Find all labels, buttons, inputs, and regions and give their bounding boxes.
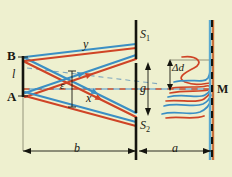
label-slit-top-subscript: 1 [146,34,150,43]
label-ray-lower-x: x [86,92,91,104]
label-slit-gap-g: g [140,82,146,94]
label-slit-bottom-S2: S2 [140,119,150,135]
label-slit-bottom-subscript: 2 [146,125,150,134]
label-source-bottom-A: A [7,90,16,103]
label-angle-epsilon: ε [60,80,64,91]
label-source-length-l: l [12,68,15,80]
label-ray-upper-y: y [83,38,88,50]
label-dim-a: a [172,142,178,154]
label-dim-b: b [74,142,80,154]
label-screen-point-M: M [217,83,228,95]
label-fringe-spacing-dd: Δd [172,62,184,73]
label-slit-top-S1: S1 [140,28,150,44]
figure-canvas [0,0,232,177]
label-source-top-B: B [7,49,16,62]
interference-figure: B A l y x ε S1 S2 g Δd M b a [0,0,232,177]
